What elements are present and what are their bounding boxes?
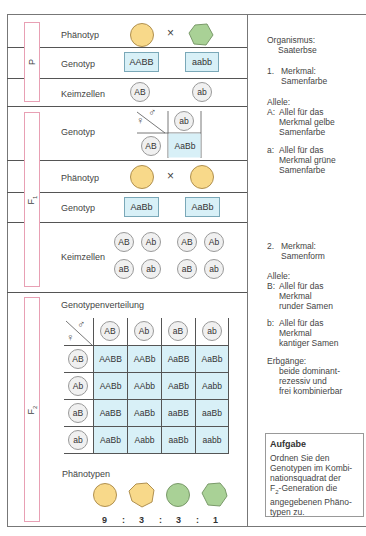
yellow-round-seed-icon <box>130 165 154 189</box>
punnett-cell: aaBB <box>162 400 195 426</box>
gamete-ab: Ab <box>204 232 224 252</box>
gamete-ab: ab <box>204 259 224 279</box>
alleles1-label: Allele: <box>267 97 290 107</box>
genotype-box-aabb-dominant: AABB <box>124 52 159 72</box>
allele-a-dominant-desc: Allel für das <box>279 107 323 117</box>
trait2-number: 2. <box>267 241 274 251</box>
row-divider <box>40 47 247 48</box>
inheritance-desc: beide dominant- <box>279 366 340 376</box>
punnett-cell: aabb <box>196 427 228 453</box>
inheritance-label: Erbgänge: <box>267 356 306 366</box>
row-divider <box>40 192 247 193</box>
male-symbol-icon: ♂ <box>148 106 156 118</box>
genotype-box-aabb-hetero: AaBb <box>124 197 159 217</box>
gamete-ab: AB <box>177 232 197 252</box>
punnett-cell: AaBb <box>128 400 161 426</box>
allele-a-recessive-desc: Samenfarbe <box>279 165 325 175</box>
punnett-cell: AAbb <box>128 373 161 399</box>
task-box: Aufgabe Ordnen Sie den Genotypen im Komb… <box>265 433 364 517</box>
section-divider <box>7 106 247 107</box>
allele-b-recessive-desc: kantiger Samen <box>279 338 339 348</box>
mini-punnett-female-gamete: AB <box>141 136 161 156</box>
trait1-label: Merkmal: <box>281 66 316 76</box>
section-divider <box>7 292 247 293</box>
f1-gametes-label: Keimzellen <box>61 252 105 262</box>
col-header-gamete: aB <box>168 321 188 341</box>
inheritance-desc: frei kombinierbar <box>279 386 342 396</box>
inheritance-desc: rezessiv und <box>279 376 327 386</box>
gamete-ab: ab <box>192 82 212 102</box>
punnett-cell: aaBb <box>162 427 195 453</box>
task-body: Ordnen Sie den Genotypen im Kombi- natio… <box>270 453 359 517</box>
gamete-ab: aB <box>177 259 197 279</box>
punnett-cell: AABb <box>128 346 161 372</box>
trait1-number: 1. <box>267 66 274 76</box>
col-header-gamete: ab <box>202 321 222 341</box>
punnett-cell: Aabb <box>128 427 161 453</box>
gamete-ab: AB <box>130 82 150 102</box>
yellow-angular-seed-icon <box>128 482 156 508</box>
grid-line <box>64 453 229 454</box>
generation-label-f1: F1 <box>24 112 40 287</box>
punnett-cell: AaBb <box>94 427 127 453</box>
row-header-gamete: Ab <box>68 376 88 396</box>
punnett-square: ♀ ♂ AB Ab aB ab AB Ab aB ab AABB AABb Aa… <box>64 318 229 454</box>
p-genotype-label: Genotyp <box>61 59 95 69</box>
punnett-cell: AABB <box>94 346 127 372</box>
p-phenotype-label: Phänotyp <box>61 30 99 40</box>
ratio-separator: : <box>196 515 199 525</box>
generation-label-f2: F2 <box>24 297 40 522</box>
ratio-separator: : <box>122 515 125 525</box>
yellow-round-seed-icon <box>190 165 214 189</box>
phenotypes-label: Phänotypen <box>62 469 110 479</box>
row-header-gamete: ab <box>68 430 88 450</box>
punnett-cell: AaBb <box>196 346 228 372</box>
trait2-label: Merkmal: <box>281 241 316 251</box>
organism-label: Organismus: <box>267 35 315 45</box>
yellow-round-seed-icon <box>93 483 117 507</box>
alleles2-label: Allele: <box>267 271 290 281</box>
female-symbol-icon: ♀ <box>136 114 144 126</box>
punnett-cell: aaBb <box>196 400 228 426</box>
gamete-ab: aB <box>114 259 134 279</box>
row-divider <box>40 222 247 223</box>
row-divider <box>40 78 247 79</box>
allele-a-recessive-desc: Merkmal grüne <box>279 155 336 165</box>
allele-a-dominant-desc: Samenfarbe <box>279 127 325 137</box>
allele-a-recessive-desc: Allel für das <box>279 145 323 155</box>
genotype-box-aabb-recessive: aabb <box>185 52 219 72</box>
allele-b-recessive-desc: Allel für das <box>279 318 323 328</box>
mini-punnett-male-gamete: ab <box>174 111 194 131</box>
ratio-value: 3 <box>139 515 144 525</box>
female-symbol-icon: ♀ <box>66 331 74 343</box>
genotype-box-aabb-hetero: AaBb <box>185 197 220 217</box>
allele-b-dominant-key: B: <box>267 281 275 291</box>
allele-b-recessive-key: b: <box>267 318 274 328</box>
green-angular-seed-icon <box>188 23 214 47</box>
cross-symbol: × <box>167 169 174 183</box>
ratio-value: 9 <box>102 515 107 525</box>
allele-b-recessive-desc: Merkmal <box>279 328 312 338</box>
punnett-cell: AaBB <box>94 400 127 426</box>
genotype-distribution-title: Genotypenverteilung <box>61 300 144 310</box>
allele-a-dominant-desc: Merkmal gelbe <box>279 117 335 127</box>
gamete-ab: Ab <box>141 232 161 252</box>
green-round-seed-icon <box>166 483 190 507</box>
punnett-cell: AaBb <box>162 373 195 399</box>
ratio-value: 1 <box>213 515 218 525</box>
col-header-gamete: Ab <box>134 321 154 341</box>
gamete-ab: ab <box>141 259 161 279</box>
male-symbol-icon: ♂ <box>77 318 85 330</box>
punnett-cell: AaBB <box>162 346 195 372</box>
trait2-name: Samenform <box>281 251 325 261</box>
ratio-separator: : <box>159 515 162 525</box>
ratio-value: 3 <box>176 515 181 525</box>
green-angular-seed-icon <box>201 482 229 508</box>
row-divider <box>40 160 247 161</box>
allele-b-dominant-desc: Allel für das <box>279 281 323 291</box>
trait1-name: Samenfarbe <box>281 76 327 86</box>
allele-a-recessive-key: a: <box>267 145 274 155</box>
p-gametes-label: Keimzellen <box>61 89 105 99</box>
grid-line <box>228 318 229 454</box>
row-header-gamete: aB <box>68 403 88 423</box>
